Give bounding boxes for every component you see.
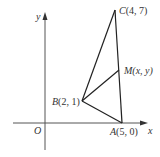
y-axis-label: y [35, 11, 41, 22]
point-m-label: M(x, y) [123, 65, 154, 77]
segment-ab [82, 101, 122, 123]
x-axis-label: x [147, 125, 153, 136]
y-axis-arrow-icon [43, 12, 48, 20]
point-a-label: A(5, 0) [109, 126, 138, 138]
segment-ca [115, 10, 122, 123]
x-axis-arrow-icon [140, 121, 148, 126]
origin-label: O [34, 125, 41, 136]
coordinate-diagram: y x O C(4, 7) M(x, y) B(2, 1) A(5, 0) [0, 0, 160, 157]
point-b-label: B(2, 1) [52, 96, 80, 108]
point-c-label: C(4, 7) [119, 5, 147, 17]
